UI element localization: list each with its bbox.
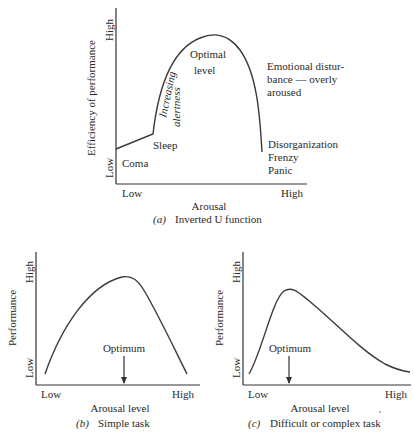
x-tick-low: Low (122, 187, 142, 199)
caption-letter: (b) (76, 417, 89, 430)
x-tick-low: Low (248, 388, 268, 400)
simple-task-curve (45, 277, 187, 374)
label-emotional-1: Emotional distur- (267, 60, 344, 72)
optimum-label: Optimum (269, 342, 312, 354)
panel-b-simple-task: Optimum High Low Performance Low High Ar… (6, 252, 200, 430)
label-disorganization: Disorganization (268, 138, 339, 150)
x-tick-low: Low (41, 388, 61, 400)
optimum-label: Optimum (103, 342, 146, 354)
label-coma: Coma (122, 157, 148, 169)
caption-letter: (a) (153, 213, 166, 226)
x-tick-high: High (172, 388, 195, 400)
caption-text: Simple task (98, 417, 150, 429)
y-tick-high: High (23, 261, 35, 284)
complex-task-curve (249, 289, 410, 374)
panel-c-complex-task: Optimum High Low Performance Low High Ar… (213, 252, 411, 430)
x-tick-high: High (281, 187, 304, 199)
label-optimal: Optimal (190, 48, 226, 60)
caption-text: Inverted U function (175, 213, 262, 225)
label-emotional-2: bance — overly (267, 73, 338, 85)
panel-a-inverted-u: High Low Efficiency of performance Low H… (85, 8, 344, 226)
label-level: level (194, 64, 215, 76)
y-tick-high: High (230, 261, 242, 284)
optimum-arrow-icon (121, 377, 127, 384)
label-alertness: alertness (170, 87, 182, 127)
inverted-u-curve (116, 35, 262, 152)
y-axis-label: Efficiency of performance (85, 40, 97, 156)
label-panic: Panic (268, 164, 293, 176)
y-tick-high: High (103, 19, 115, 42)
optimum-arrow-icon (286, 377, 292, 384)
y-axis-label: Performance (213, 290, 225, 346)
y-axis-label: Performance (6, 290, 18, 346)
caption-text: Difficult or complex task (270, 417, 381, 429)
y-tick-low: Low (103, 158, 115, 178)
x-axis-label: Arousal level (291, 402, 350, 414)
caption-letter: (c) (248, 417, 261, 430)
x-tick-high: High (385, 388, 408, 400)
label-sleep: Sleep (153, 139, 178, 151)
y-tick-low: Low (230, 358, 242, 378)
x-axis-label: Arousal level (91, 402, 150, 414)
x-axis-label: Arousal (192, 200, 227, 212)
label-emotional-3: aroused (267, 86, 302, 98)
stray-dot (379, 411, 381, 413)
y-tick-low: Low (23, 358, 35, 378)
arousal-performance-figure: High Low Efficiency of performance Low H… (0, 0, 415, 435)
label-frenzy: Frenzy (268, 151, 299, 163)
